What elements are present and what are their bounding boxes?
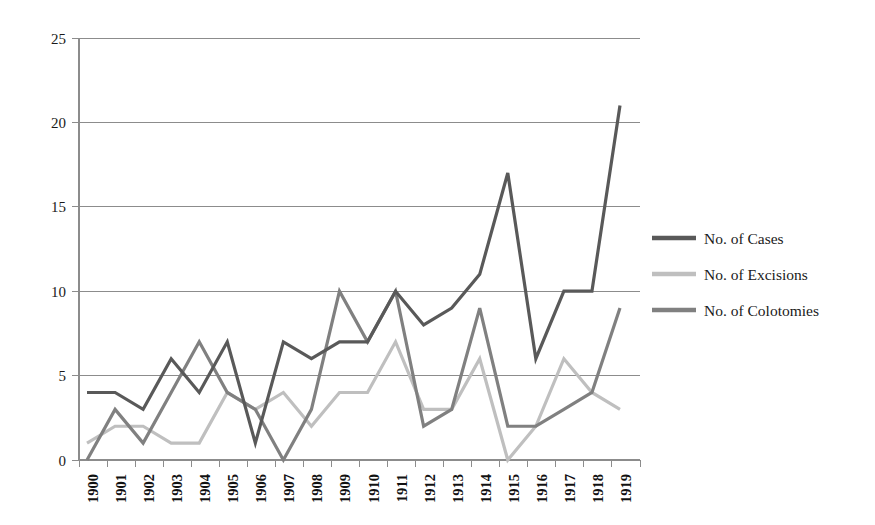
x-tick-label: 1917 (562, 474, 578, 503)
x-tick-marks-group (79, 460, 640, 467)
legend-label: No. of Colotomies (704, 302, 819, 319)
x-tick-label: 1912 (422, 474, 438, 503)
y-tick-label: 15 (51, 199, 66, 215)
y-tick-label: 5 (59, 368, 67, 384)
chart-svg: 0510152025 19001901190219031904190519061… (0, 0, 875, 525)
y-tick-label: 0 (59, 453, 67, 469)
legend-label: No. of Excisions (704, 266, 808, 283)
y-tick-label: 10 (51, 284, 66, 300)
x-tick-label: 1915 (506, 474, 522, 503)
x-tick-label: 1916 (534, 474, 550, 503)
x-tick-label: 1905 (225, 474, 241, 503)
x-tick-label: 1908 (309, 474, 325, 503)
x-tick-label: 1913 (450, 474, 466, 503)
y-tick-label: 20 (51, 115, 66, 131)
x-tick-label: 1919 (618, 474, 634, 503)
x-tick-label: 1906 (253, 474, 269, 503)
x-tick-label: 1901 (113, 474, 129, 503)
x-tick-label: 1900 (85, 474, 101, 503)
x-tick-label: 1902 (141, 474, 157, 503)
x-tick-label: 1918 (590, 474, 606, 503)
y-tick-label: 25 (51, 31, 66, 47)
x-tick-label: 1904 (197, 474, 213, 503)
x-tick-label: 1909 (337, 474, 353, 503)
x-tick-label: 1911 (394, 474, 410, 502)
x-tick-label: 1903 (169, 474, 185, 503)
x-tick-label: 1914 (478, 474, 494, 503)
legend-label: No. of Cases (704, 230, 784, 247)
line-chart: 0510152025 19001901190219031904190519061… (0, 0, 875, 525)
chart-background (0, 0, 875, 525)
x-tick-label: 1910 (366, 474, 382, 503)
x-tick-label: 1907 (281, 474, 297, 503)
